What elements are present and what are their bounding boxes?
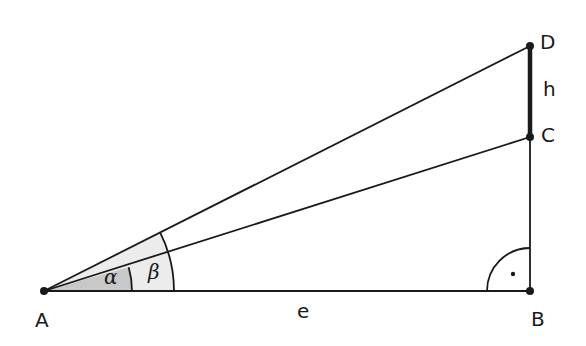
point-B	[526, 287, 534, 295]
right-angle-dot	[511, 272, 515, 276]
point-A	[40, 287, 48, 295]
point-D	[526, 42, 534, 50]
segment-AD	[44, 46, 530, 291]
right-angle-arc	[487, 248, 530, 291]
label-point-A: A	[35, 310, 49, 330]
label-point-D: D	[540, 32, 555, 52]
label-angle-beta: β	[148, 262, 160, 282]
point-C	[526, 133, 534, 141]
label-segment-h: h	[543, 79, 556, 99]
label-segment-e: e	[297, 301, 309, 321]
label-point-C: C	[541, 125, 555, 145]
label-point-B: B	[531, 309, 545, 329]
triangle-diagram	[0, 0, 586, 346]
label-angle-alpha: α	[104, 267, 118, 287]
